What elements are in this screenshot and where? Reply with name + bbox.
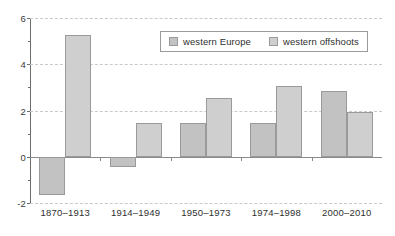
bar-western-europe-1950–1973 <box>180 123 206 157</box>
gridline-y--2 <box>30 203 382 204</box>
y-tick-label-2: 2 <box>0 105 26 116</box>
legend-item-western-europe: western Europe <box>169 36 251 47</box>
bar-western-offshoots-1950–1973 <box>206 98 232 157</box>
x-tick-3 <box>241 157 242 161</box>
bar-chart: -20246 1870–19131914–19491950–19731974–1… <box>0 0 395 236</box>
x-tick-label-1914–1949: 1914–1949 <box>111 207 160 218</box>
x-tick-label-1950–1973: 1950–1973 <box>181 207 230 218</box>
legend-swatch-icon-western-europe <box>169 37 178 46</box>
bar-western-offshoots-1974–1998 <box>276 86 302 157</box>
x-tick-2 <box>171 157 172 161</box>
y-tick-label-4: 4 <box>0 59 26 70</box>
gridline-y-6 <box>30 18 382 19</box>
legend-label-western-offshoots: western offshoots <box>283 36 359 47</box>
chart-legend: western Europe western offshoots <box>160 31 368 52</box>
x-tick-1 <box>100 157 101 161</box>
legend-swatch-icon-western-offshoots <box>269 37 278 46</box>
x-tick-4 <box>312 157 313 161</box>
y-axis-tick-labels: -20246 <box>0 18 26 203</box>
legend-item-western-offshoots: western offshoots <box>269 36 359 47</box>
x-axis-tick-labels: 1870–19131914–19491950–19731974–19982000… <box>30 207 382 227</box>
bar-western-europe-2000–2010 <box>321 91 347 157</box>
y-tick-label-6: 6 <box>0 13 26 24</box>
x-tick-label-1870–1913: 1870–1913 <box>41 207 90 218</box>
bar-western-europe-1914–1949 <box>110 157 136 167</box>
bar-western-offshoots-2000–2010 <box>347 112 373 157</box>
bar-western-europe-1870–1913 <box>39 157 65 196</box>
x-tick-label-2000–2010: 2000–2010 <box>322 207 371 218</box>
bar-western-offshoots-1870–1913 <box>65 35 91 156</box>
bar-western-europe-1974–1998 <box>250 123 276 157</box>
x-tick-label-1974–1998: 1974–1998 <box>252 207 301 218</box>
y-tick-label--2: -2 <box>0 198 26 209</box>
bar-western-offshoots-1914–1949 <box>136 123 162 157</box>
zero-line <box>30 157 382 158</box>
y-tick-label-0: 0 <box>0 151 26 162</box>
legend-label-western-europe: western Europe <box>183 36 251 47</box>
